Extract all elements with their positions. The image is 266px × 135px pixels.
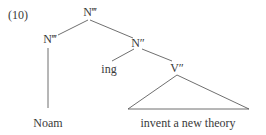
branch-nbar-to-vbar	[142, 49, 172, 61]
node-vbar: V″	[170, 62, 184, 74]
branch-nbar-to-ing	[112, 49, 134, 61]
node-right: N″	[131, 37, 145, 49]
example-number: (10)	[8, 9, 28, 21]
leaf-noam: Noam	[33, 117, 62, 129]
tree-branches	[0, 0, 266, 135]
vp-triangle	[128, 75, 249, 109]
node-root: N‴	[83, 6, 97, 18]
leaf-triangle: invent a new theory	[141, 117, 236, 129]
node-left: N‴	[43, 33, 57, 45]
node-ing: ing	[101, 63, 116, 75]
branch-root-left	[58, 20, 88, 35]
branch-root-right	[90, 20, 133, 38]
